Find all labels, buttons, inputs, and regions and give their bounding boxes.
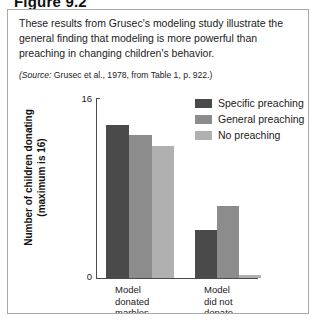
bar-g1-no-preaching	[152, 146, 174, 278]
x-axis-group-label-2: Model did not donate marbles	[204, 284, 274, 314]
bar-g1-specific-preaching	[106, 125, 129, 278]
y-tick-label-16: 16	[58, 93, 92, 104]
group-label-line: did not	[204, 296, 274, 308]
y-axis-line	[96, 98, 97, 279]
y-axis-tick-16	[96, 98, 100, 99]
bar-g1-general-preaching	[129, 135, 152, 278]
x-axis-group-label-1: Model donated marbles	[115, 284, 185, 314]
group-label-line: donate	[204, 307, 274, 314]
bar-chart: Number of children donating (maximum is …	[8, 10, 309, 314]
group-label-line: marbles	[115, 307, 185, 314]
figure-card: These results from Grusec's modeling stu…	[7, 9, 309, 314]
group-label-line: Model	[115, 284, 185, 296]
group-label-line: donated	[115, 296, 185, 308]
y-axis-title: Number of children donating (maximum is …	[23, 103, 48, 253]
group-label-line: Model	[204, 284, 274, 296]
x-axis-line	[96, 278, 258, 279]
bar-g2-specific-preaching	[195, 230, 217, 278]
bar-g2-general-preaching	[217, 206, 239, 278]
y-tick-label-0: 0	[58, 271, 92, 282]
bar-g2-no-preaching	[239, 275, 261, 278]
